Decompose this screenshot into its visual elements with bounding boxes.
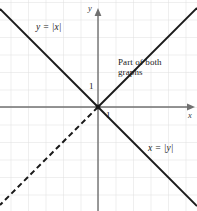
origin-point <box>96 105 101 110</box>
y-axis-label: y <box>88 3 92 13</box>
curve-label-y-equals-abs-x: y = |x| <box>36 22 62 33</box>
x-axis-tick-label-1: 1 <box>106 110 111 120</box>
annotation-part-of-both-graphs: Part of both graphs <box>118 57 182 77</box>
y-axis-tick-label-1: 1 <box>89 81 94 91</box>
figure-container: y x 1 1 y = |x| Part of both graphs x = … <box>0 0 197 211</box>
x-axis-label: x <box>188 110 192 120</box>
graph-canvas <box>0 0 197 211</box>
curve-label-x-equals-abs-y: x = |y| <box>148 143 174 154</box>
